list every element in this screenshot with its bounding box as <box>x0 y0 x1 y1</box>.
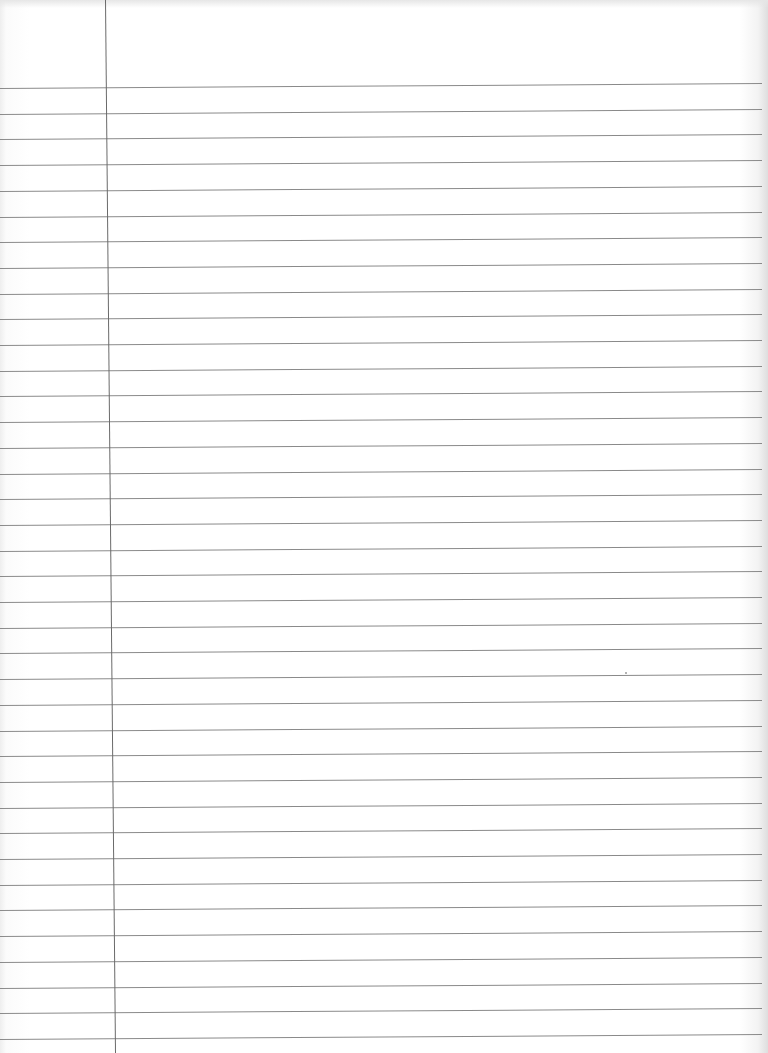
ruled-line <box>0 520 762 526</box>
ruled-line <box>0 160 762 166</box>
ruled-line <box>0 494 762 500</box>
ruled-line <box>0 674 762 680</box>
ruled-line <box>0 417 762 423</box>
ruled-line <box>0 212 762 218</box>
ruled-line <box>0 186 762 192</box>
ruled-line <box>0 546 762 552</box>
ruled-line <box>0 726 762 732</box>
ruled-line <box>0 648 762 654</box>
ruled-line <box>0 263 762 269</box>
ruled-line <box>0 571 762 577</box>
ruled-line <box>0 828 762 834</box>
ruled-line <box>0 803 762 809</box>
lined-paper-sheet <box>0 0 768 1053</box>
ruled-line <box>0 623 762 629</box>
top-edge-shadow <box>0 0 768 8</box>
ruled-line <box>0 134 762 140</box>
ruled-line <box>0 854 762 860</box>
ruled-line <box>0 289 762 295</box>
ruled-line <box>0 700 762 706</box>
margin-line <box>105 0 116 1053</box>
ruled-line <box>0 751 762 757</box>
ruled-line <box>0 597 762 603</box>
ruled-line <box>0 314 762 320</box>
ruled-line <box>0 391 762 397</box>
ruled-line <box>0 340 762 346</box>
ruled-line <box>0 777 762 783</box>
ruled-line <box>0 443 762 449</box>
ruled-line <box>0 237 762 243</box>
ruled-line <box>0 469 762 475</box>
ruled-line <box>0 83 762 89</box>
paper-speck <box>625 672 627 674</box>
ruled-line <box>0 366 762 372</box>
ruled-line <box>0 109 762 115</box>
